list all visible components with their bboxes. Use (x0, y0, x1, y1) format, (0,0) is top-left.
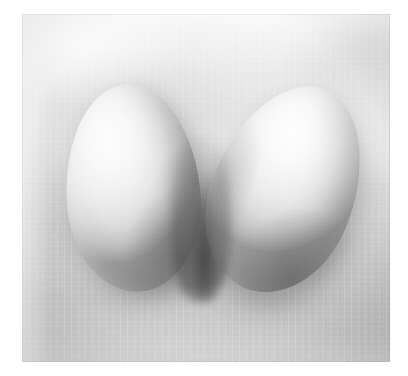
page-canvas (0, 0, 408, 376)
photograph (22, 14, 390, 362)
egg-gap-shadow (172, 134, 230, 302)
